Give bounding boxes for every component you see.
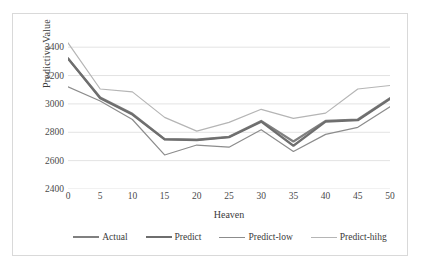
legend-line-icon bbox=[219, 237, 245, 238]
chart-legend: ActualPredictPredict-lowPredict-hihg bbox=[60, 229, 400, 245]
line-chart-svg bbox=[68, 33, 390, 189]
x-tick-label: 10 bbox=[117, 191, 147, 201]
legend-label: Predict bbox=[175, 232, 202, 242]
data-series-group bbox=[68, 43, 390, 155]
y-tick-label: 3000 bbox=[24, 99, 64, 109]
series-line-predict-hihg bbox=[68, 43, 390, 131]
x-tick-label: 45 bbox=[343, 191, 373, 201]
x-tick-label: 40 bbox=[311, 191, 341, 201]
gridlines bbox=[68, 47, 390, 189]
legend-line-icon bbox=[73, 236, 99, 238]
legend-label: Actual bbox=[102, 232, 127, 242]
y-tick-label: 2800 bbox=[24, 127, 64, 137]
x-tick-label: 50 bbox=[375, 191, 405, 201]
legend-line-icon bbox=[311, 237, 337, 238]
x-tick-label: 15 bbox=[150, 191, 180, 201]
legend-item[interactable]: Predict-low bbox=[219, 232, 292, 242]
y-tick-label: 3200 bbox=[24, 71, 64, 81]
y-axis-tick-labels: 340032003000280026002400 bbox=[20, 33, 64, 189]
legend-label: Predict-hihg bbox=[340, 232, 387, 242]
x-tick-label: 5 bbox=[85, 191, 115, 201]
chart-figure: Predictive Value 34003200300028002600240… bbox=[0, 0, 422, 271]
x-axis-title: Heaven bbox=[68, 209, 390, 220]
legend-item[interactable]: Predict bbox=[146, 232, 202, 242]
plot-area bbox=[68, 33, 390, 189]
series-line-actual bbox=[68, 59, 390, 142]
x-tick-label: 0 bbox=[53, 191, 83, 201]
x-tick-label: 30 bbox=[246, 191, 276, 201]
legend-item[interactable]: Actual bbox=[73, 232, 127, 242]
legend-item[interactable]: Predict-hihg bbox=[311, 232, 387, 242]
legend-line-icon bbox=[146, 236, 172, 238]
y-tick-label: 2600 bbox=[24, 156, 64, 166]
x-tick-label: 35 bbox=[278, 191, 308, 201]
y-tick-label: 3400 bbox=[24, 42, 64, 52]
x-axis-tick-labels: 05101520253035404550 bbox=[68, 191, 390, 205]
legend-label: Predict-low bbox=[248, 232, 292, 242]
x-tick-label: 25 bbox=[214, 191, 244, 201]
x-tick-label: 20 bbox=[182, 191, 212, 201]
